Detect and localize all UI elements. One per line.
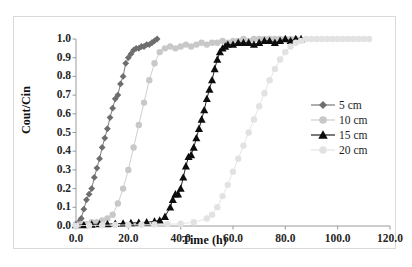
chart-legend: 5 cm10 cm15 cm20 cm — [310, 97, 392, 157]
y-axis-tick-label: 0.8 — [31, 70, 71, 82]
y-axis-tick-label: 0.9 — [31, 52, 71, 64]
legend-marker-icon — [310, 98, 336, 112]
chart-frame: Cout/Cin Time (h) 0.00.10.20.30.40.50.60… — [13, 16, 396, 249]
series-5cm — [73, 36, 161, 228]
y-axis-tick-label: 0.3 — [31, 164, 71, 176]
y-axis-tick-label: 0.4 — [31, 145, 71, 157]
legend-item-20cm[interactable]: 20 cm — [310, 142, 392, 157]
legend-item-10cm[interactable]: 10 cm — [310, 112, 392, 127]
y-axis-tick-label: 0.2 — [31, 183, 71, 195]
y-axis-tick-label: 0.5 — [31, 127, 71, 139]
legend-item-label: 10 cm — [336, 114, 367, 126]
x-axis-tick-label: 20.0 — [100, 233, 156, 245]
chart-figure: Cout/Cin Time (h) 0.00.10.20.30.40.50.60… — [0, 0, 412, 267]
legend-item-label: 20 cm — [336, 144, 367, 156]
x-axis-tick-label: 120.0 — [362, 233, 412, 245]
legend-item-5cm[interactable]: 5 cm — [310, 97, 392, 112]
y-axis-tick-label: 0.0 — [31, 220, 71, 232]
y-axis-tick-label: 1.0 — [31, 33, 71, 45]
x-axis-tick-label: 60.0 — [205, 233, 261, 245]
legend-item-label: 15 cm — [336, 129, 367, 141]
legend-item-15cm[interactable]: 15 cm — [310, 127, 392, 142]
y-axis-tick-label: 0.1 — [31, 201, 71, 213]
legend-item-label: 5 cm — [336, 99, 362, 111]
x-axis-tick-label: 80.0 — [257, 233, 313, 245]
x-axis-tick-label: 40.0 — [153, 233, 209, 245]
x-axis-tick-label: 100.0 — [310, 233, 366, 245]
y-axis-tick-label: 0.6 — [31, 108, 71, 120]
y-axis-tick-label: 0.7 — [31, 89, 71, 101]
x-axis-tick-label: 0.0 — [48, 233, 104, 245]
legend-marker-icon — [310, 143, 336, 157]
legend-marker-icon — [310, 128, 336, 142]
legend-marker-icon — [310, 113, 336, 127]
